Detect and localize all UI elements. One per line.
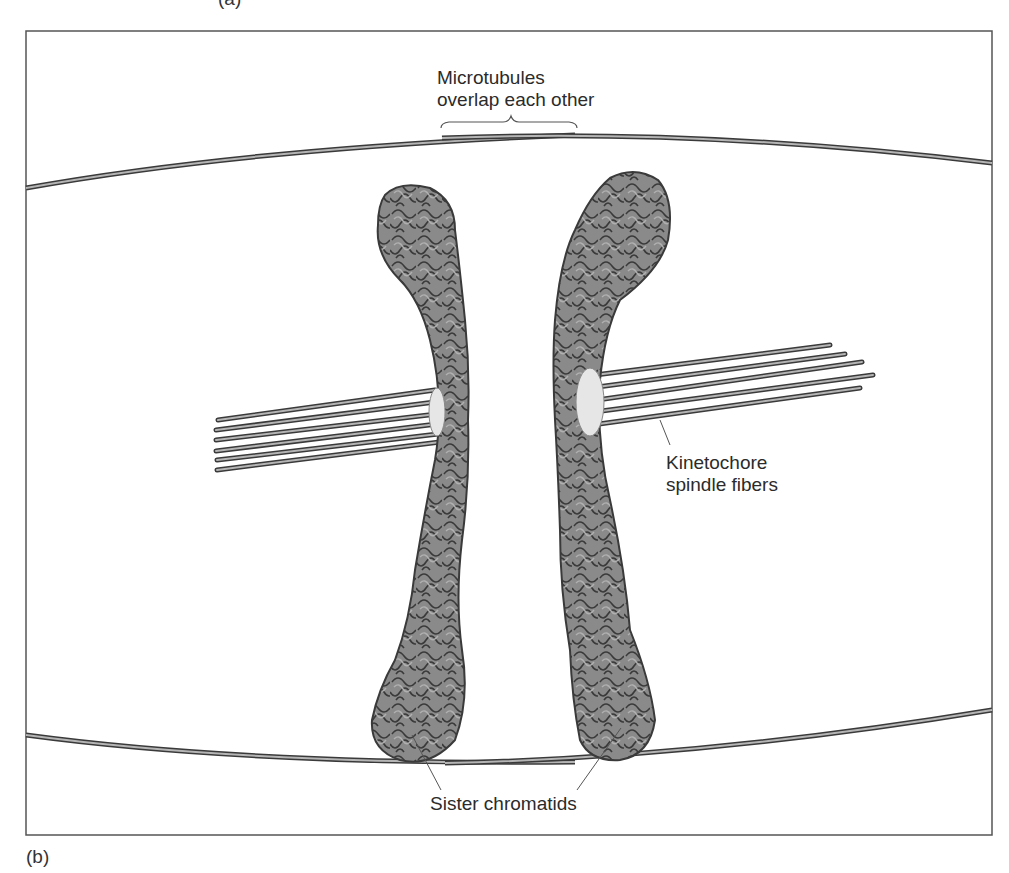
bottom-spindle-microtubules [26, 710, 992, 763]
microtubules-label-line1: Microtubules [437, 67, 594, 89]
overlap-bracket [441, 116, 577, 128]
microtubules-overlap-label: Microtubules overlap each other [437, 67, 594, 111]
kinetochore-label-line2: spindle fibers [666, 474, 778, 496]
right-sister-chromatid [554, 172, 671, 760]
right-kinetochore-fibers [590, 345, 873, 424]
kinetochore-leader-line [660, 420, 670, 445]
left-kinetochore [429, 388, 445, 436]
sister-chromatids-label: Sister chromatids [430, 793, 577, 815]
panel-label: (b) [26, 846, 49, 868]
microtubules-label-line2: overlap each other [437, 89, 594, 111]
mitosis-diagram [0, 0, 1009, 873]
kinetochore-label-line1: Kinetochore [666, 452, 778, 474]
panel-label-top: (a) [218, 0, 241, 10]
left-sister-chromatid [372, 185, 469, 762]
kinetochore-spindle-fibers-label: Kinetochore spindle fibers [666, 452, 778, 496]
figure-frame [26, 31, 992, 835]
right-kinetochore [576, 368, 604, 436]
top-spindle-microtubules [26, 135, 992, 188]
left-kinetochore-fibers [216, 390, 440, 470]
